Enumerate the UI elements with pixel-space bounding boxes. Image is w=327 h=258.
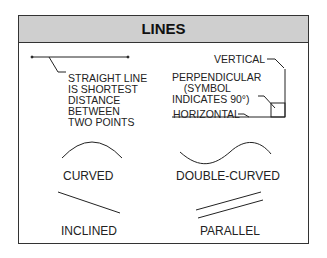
curved-line xyxy=(62,142,122,158)
inclined-line xyxy=(58,192,120,213)
vertical-label: VERTICAL xyxy=(214,54,265,65)
straight-leader xyxy=(49,57,66,72)
straight-line-label: STRAIGHT LINE IS SHORTEST DISTANCE BETWE… xyxy=(68,73,147,128)
horizontal-label: HORIZONTAL xyxy=(173,109,240,120)
vertical-leader xyxy=(267,59,284,68)
perpendicular-label: PERPENDICULAR (SYMBOL INDICATES 90°) xyxy=(172,72,261,105)
double-curved-label: DOUBLE-CURVED xyxy=(176,171,280,182)
parallel-line-1 xyxy=(196,192,261,210)
double-curved-line xyxy=(180,142,271,163)
parallel-line-2 xyxy=(198,200,263,218)
line-drawings xyxy=(0,0,327,258)
right-angle-symbol xyxy=(271,103,285,117)
inclined-label: INCLINED xyxy=(61,226,117,237)
parallel-label: PARALLEL xyxy=(200,226,260,237)
curved-label: CURVED xyxy=(63,171,113,182)
